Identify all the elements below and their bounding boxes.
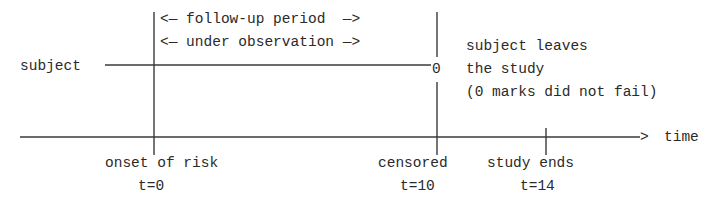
subject-label: subject <box>20 58 81 75</box>
censoring-diagram: <— follow-up period —> <— under observat… <box>0 0 724 211</box>
censor-note-line-1: subject leaves <box>466 38 588 55</box>
censor-note-line-3: (0 marks did not fail) <box>466 84 657 101</box>
time-axis-arrowhead: > <box>640 129 649 146</box>
under-observation-label: <— under observation —> <box>160 34 360 51</box>
censor-marker: 0 <box>432 61 441 78</box>
censor-note-line-2: the study <box>466 61 544 78</box>
tick-label-censored: censored <box>378 155 448 172</box>
tick-value-study-ends: t=14 <box>520 178 555 195</box>
tick-label-study-ends: study ends <box>487 155 574 172</box>
follow-up-period-label: <— follow-up period —> <box>160 11 360 28</box>
tick-label-onset: onset of risk <box>105 155 218 172</box>
time-axis-label: time <box>664 129 699 146</box>
tick-value-onset: t=0 <box>138 178 164 195</box>
tick-value-censored: t=10 <box>400 178 435 195</box>
diagram-lines <box>0 0 724 211</box>
